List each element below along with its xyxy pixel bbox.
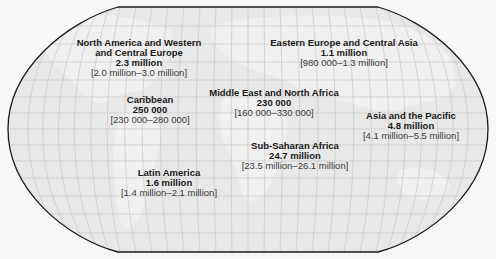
region-label-eastern-europe-central-asia: Eastern Europe and Central Asia 1.1 mill… [270, 38, 417, 68]
region-range: [980 000–1.3 million] [270, 58, 417, 68]
region-label-north-america-western-central-europe: North America and Western and Central Eu… [77, 38, 202, 78]
region-range: [230 000–280 000] [110, 115, 189, 125]
region-label-sub-saharan-africa: Sub-Saharan Africa 24.7 million [23.5 mi… [242, 141, 349, 171]
region-range: [2.0 million–3.0 million] [77, 68, 202, 78]
region-range: [4.1 million–5.5 million] [363, 131, 459, 141]
region-label-caribbean: Caribbean 250 000 [230 000–280 000] [110, 95, 189, 125]
region-label-asia-pacific: Asia and the Pacific 4.8 million [4.1 mi… [363, 111, 459, 141]
region-range: [23.5 million–26.1 million] [242, 161, 349, 171]
region-label-middle-east-north-africa: Middle East and North Africa 230 000 [16… [209, 88, 339, 118]
region-range: [1.4 million–2.1 million] [121, 188, 217, 198]
region-range: [160 000–330 000] [209, 108, 339, 118]
region-label-latin-america: Latin America 1.6 million [1.4 million–2… [121, 168, 217, 198]
